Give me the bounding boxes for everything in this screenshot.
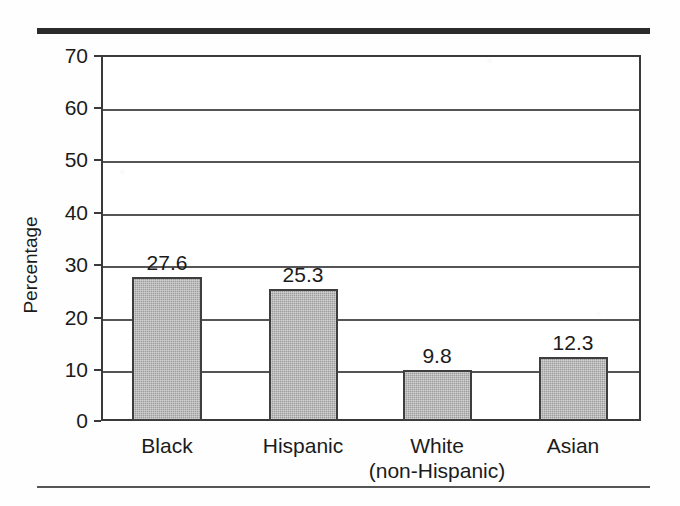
bar-value-white: 9.8 bbox=[392, 345, 482, 366]
ytick-mark-10 bbox=[94, 369, 101, 371]
category-label-black: Black bbox=[97, 433, 237, 458]
bar-white bbox=[403, 370, 472, 421]
category-label-hispanic: Hispanic bbox=[233, 433, 373, 458]
ytick-mark-70 bbox=[94, 55, 101, 57]
bar-value-black: 27.6 bbox=[122, 252, 212, 273]
bar-value-asian: 12.3 bbox=[528, 332, 618, 353]
ytick-label-70: 70 bbox=[40, 45, 88, 66]
gridline-40 bbox=[103, 214, 639, 216]
ytick-mark-50 bbox=[94, 159, 101, 161]
gridline-50 bbox=[103, 161, 639, 163]
ytick-mark-30 bbox=[94, 264, 101, 266]
bar-asian bbox=[539, 357, 608, 421]
bar-value-hispanic: 25.3 bbox=[258, 264, 348, 285]
ytick-label-0: 0 bbox=[40, 410, 88, 431]
ytick-mark-0 bbox=[94, 420, 101, 422]
bottom-rule-divider bbox=[37, 486, 650, 488]
ytick-mark-40 bbox=[94, 212, 101, 214]
category-label-white: White (non-Hispanic) bbox=[357, 433, 517, 484]
y-axis-title: Percentage bbox=[14, 195, 48, 335]
category-label-black-text: Black bbox=[141, 434, 192, 457]
gridline-60 bbox=[103, 109, 639, 111]
category-label-white-text: White bbox=[410, 434, 464, 457]
ytick-label-50: 50 bbox=[40, 149, 88, 170]
top-rule-divider bbox=[37, 28, 650, 34]
category-label-hispanic-text: Hispanic bbox=[263, 434, 344, 457]
ytick-label-10: 10 bbox=[40, 359, 88, 380]
category-label-asian-text: Asian bbox=[547, 434, 600, 457]
bar-black bbox=[132, 277, 202, 421]
category-label-white-sublabel: (non-Hispanic) bbox=[357, 458, 517, 484]
y-axis-title-text: Percentage bbox=[20, 216, 42, 313]
ytick-mark-20 bbox=[94, 317, 101, 319]
bar-hispanic bbox=[269, 289, 338, 421]
category-label-asian: Asian bbox=[503, 433, 643, 458]
ytick-mark-60 bbox=[94, 107, 101, 109]
bar-chart-figure: 70 60 50 40 30 20 10 0 Percentage 27.6 2… bbox=[0, 0, 680, 506]
ytick-label-60: 60 bbox=[40, 97, 88, 118]
